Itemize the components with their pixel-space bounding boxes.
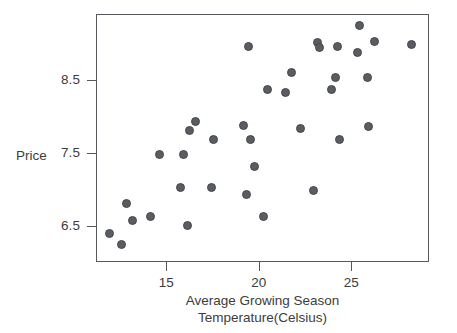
y-axis-tick <box>87 226 96 227</box>
x-axis-title: Average Growing Season Temperature(Celsi… <box>96 292 429 326</box>
y-axis-tick <box>87 153 96 154</box>
y-axis-tick <box>87 80 96 81</box>
x-axis-tick <box>259 262 260 271</box>
data-point <box>333 42 342 51</box>
data-point <box>183 221 192 230</box>
x-axis-title-line-2: Temperature(Celsius) <box>96 309 429 326</box>
data-point <box>239 121 248 130</box>
data-point <box>176 183 185 192</box>
x-axis-tick-label: 25 <box>331 275 371 290</box>
data-point <box>122 199 131 208</box>
x-axis-tick <box>166 262 167 271</box>
data-point <box>185 126 194 135</box>
data-point <box>128 216 137 225</box>
data-point <box>179 150 188 159</box>
plot-area <box>96 14 429 262</box>
data-point <box>287 68 296 77</box>
data-point <box>263 85 272 94</box>
data-point <box>246 135 255 144</box>
x-axis-tick-label: 15 <box>146 275 186 290</box>
data-point <box>191 117 200 126</box>
data-point <box>407 40 416 49</box>
data-point <box>353 48 362 57</box>
scatter-plot-figure: Price 6.57.58.5 152025 Average Growing S… <box>0 0 457 333</box>
data-point <box>364 122 373 131</box>
data-point <box>146 212 155 221</box>
data-point <box>259 212 268 221</box>
data-point <box>117 240 126 249</box>
data-point <box>309 186 318 195</box>
y-axis-tick-label: 8.5 <box>36 73 80 87</box>
data-point <box>207 183 216 192</box>
data-point <box>250 162 259 171</box>
data-point <box>327 85 336 94</box>
data-point <box>370 37 379 46</box>
y-axis-tick-label: 6.5 <box>36 219 80 233</box>
x-axis-tick-label: 20 <box>239 275 279 290</box>
x-axis-tick <box>351 262 352 271</box>
data-point <box>355 21 364 30</box>
data-point <box>335 135 344 144</box>
data-points-layer <box>97 15 428 261</box>
y-axis-tick-label: 7.5 <box>36 146 80 160</box>
data-point <box>209 135 218 144</box>
data-point <box>363 73 372 82</box>
data-point <box>105 229 114 238</box>
data-point <box>244 42 253 51</box>
data-point <box>242 190 251 199</box>
data-point <box>315 43 324 52</box>
data-point <box>331 73 340 82</box>
data-point <box>296 124 305 133</box>
data-point <box>281 88 290 97</box>
x-axis-title-line-1: Average Growing Season <box>96 292 429 309</box>
data-point <box>155 150 164 159</box>
